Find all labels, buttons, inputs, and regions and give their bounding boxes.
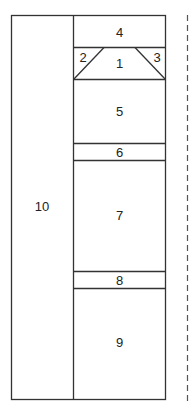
label-7: 7 [116, 208, 123, 223]
label-4: 4 [116, 25, 123, 40]
diagonal-right [135, 48, 166, 80]
label-5: 5 [116, 104, 123, 119]
label-1: 1 [116, 56, 123, 71]
label-8: 8 [116, 273, 123, 288]
label-2: 2 [79, 50, 86, 65]
label-10: 10 [35, 199, 49, 214]
label-9: 9 [116, 335, 123, 350]
label-6: 6 [116, 145, 123, 160]
diagonal-left [74, 48, 105, 80]
panel-diagram: 4 1 2 3 5 6 7 8 9 10 [0, 0, 189, 401]
label-3: 3 [153, 50, 160, 65]
